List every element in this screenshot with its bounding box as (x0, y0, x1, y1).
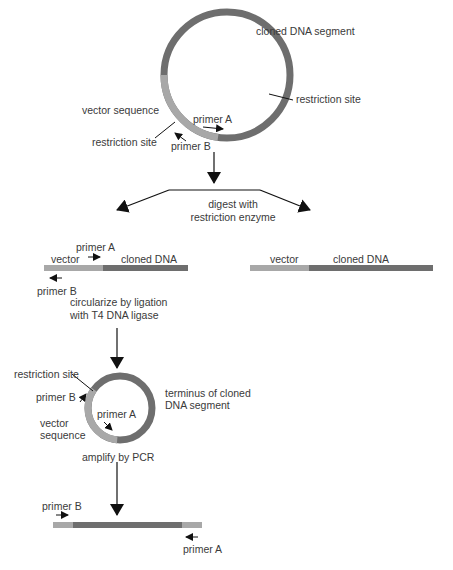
small-restriction-site-label: restriction site (14, 368, 79, 380)
product-primer-a-label: primer A (183, 543, 222, 555)
restriction-site-left-leader (155, 122, 175, 138)
small-vector-label-line1: vector (40, 417, 69, 429)
right-vector-bar (250, 265, 310, 271)
terminus-label-line1: terminus of cloned (165, 387, 251, 399)
product-vector-right (182, 522, 202, 528)
pcr-product (53, 515, 202, 537)
pcr-label: amplify by PCR (82, 451, 154, 463)
primer-b-label: primer B (171, 140, 211, 152)
primer-a-arrow-icon (203, 127, 223, 129)
right-fragment (250, 265, 433, 271)
right-vector-label: vector (270, 253, 299, 265)
restriction-site-right-label: restriction site (296, 93, 361, 105)
small-vector-label-line2: sequence (40, 429, 86, 441)
right-cloned-label: cloned DNA (333, 253, 389, 265)
left-cloned-bar (103, 265, 188, 271)
restriction-site-left-label: restriction site (92, 136, 157, 148)
product-vector-left (53, 522, 74, 528)
primer-a-label: primer A (193, 113, 232, 125)
left-vector-bar (44, 265, 104, 271)
small-primer-a-arrow-icon (104, 422, 112, 430)
digest-label-line1: digest with (174, 198, 292, 210)
product-primer-b-label: primer B (42, 500, 82, 512)
right-cloned-bar (309, 265, 433, 271)
ligation-label-line2: with T4 DNA ligase (70, 309, 159, 321)
product-cloned-bar (73, 522, 183, 528)
left-cloned-label: cloned DNA (121, 253, 177, 265)
small-primer-b-arrow-icon (80, 394, 86, 402)
terminus-label-line2: DNA segment (165, 399, 230, 411)
ligation-label-line1: circularize by ligation (70, 296, 167, 308)
small-primer-b-label: primer B (36, 391, 76, 403)
digest-label-line2: restriction enzyme (174, 211, 292, 223)
cloned-dna-segment-label: cloned DNA segment (256, 25, 355, 37)
left-primer-a-label: primer A (76, 241, 115, 253)
vector-sequence-label: vector sequence (82, 104, 159, 116)
left-split-arrow-icon (117, 190, 169, 210)
left-vector-label: vector (51, 253, 80, 265)
small-primer-a-label: primer A (97, 408, 136, 420)
